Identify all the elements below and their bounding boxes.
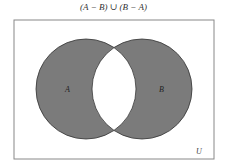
set-b-label: B xyxy=(159,85,164,94)
venn-diagram: A B U xyxy=(0,0,227,166)
set-a-label: A xyxy=(64,85,70,94)
